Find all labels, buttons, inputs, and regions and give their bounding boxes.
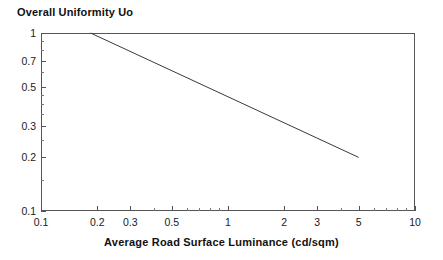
y-tick-label: 0.7: [21, 55, 36, 67]
y-axis-major-ticks: [41, 34, 46, 212]
plot-svg: [0, 0, 443, 260]
y-axis-minor-ticks: [41, 42, 44, 181]
x-tick-label: 0.3: [123, 216, 138, 228]
y-tick-label: 1: [30, 27, 36, 39]
x-axis-title: Average Road Surface Luminance (cd/sqm): [0, 236, 443, 248]
x-tick-label: 5: [356, 216, 362, 228]
x-tick-label: 10: [409, 216, 421, 228]
x-axis-major-ticks: [42, 206, 416, 211]
x-tick-label: 0.1: [34, 216, 49, 228]
y-tick-label: 0.3: [21, 120, 36, 132]
data-series-group: [91, 33, 359, 157]
x-tick-label: 0.5: [164, 216, 179, 228]
x-axis-minor-ticks: [155, 208, 407, 211]
y-tick-label: 0.2: [21, 151, 36, 163]
y-tick-label: 0.5: [21, 81, 36, 93]
x-tick-label: 0.2: [90, 216, 105, 228]
x-tick-label: 2: [281, 216, 287, 228]
chart-figure: Overall Uniformity Uo 0.10.20.30.50.71 0…: [0, 0, 443, 260]
x-tick-label: 1: [225, 216, 231, 228]
x-tick-label: 3: [314, 216, 320, 228]
